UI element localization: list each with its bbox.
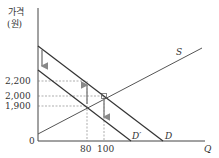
demand-curve-d	[38, 46, 163, 141]
y-tick-2200: 2,200	[5, 76, 31, 86]
demand-label: D	[164, 131, 172, 141]
origin-label: 0	[29, 136, 35, 146]
y-tick-1900: 1,900	[5, 101, 31, 111]
y-axis-unit: (원)	[7, 19, 22, 29]
supply-curve-s	[38, 48, 202, 134]
y-tick-2000: 2,000	[5, 91, 31, 101]
y-axis-label: 가격	[8, 6, 24, 17]
x-tick-100: 100	[97, 144, 114, 154]
x-axis-label: Q	[204, 144, 212, 154]
supply-demand-diagram: 가격 (원) 2,200 2,000 1,900 0 80 100 Q S D …	[0, 0, 219, 158]
x-tick-80: 80	[80, 144, 92, 154]
demand-shifted-label: D′	[131, 131, 141, 141]
supply-label: S	[176, 47, 182, 57]
guide-lines	[38, 81, 104, 141]
